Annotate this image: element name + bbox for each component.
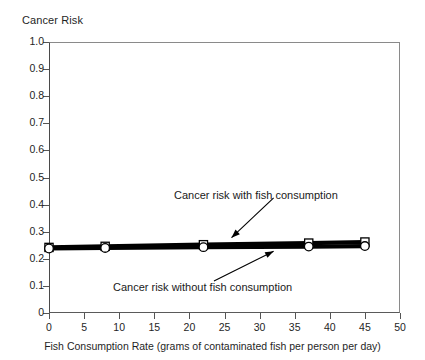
annotation-arrow-without-fish — [214, 251, 274, 281]
data-point-marker — [101, 244, 110, 253]
annotation-arrow-with-fish — [232, 198, 274, 238]
data-point-marker — [199, 243, 208, 252]
data-point-marker — [45, 244, 54, 253]
annotation-without-fish-consumption: Cancer risk without fish consumption — [113, 281, 292, 293]
data-point-marker — [361, 242, 370, 251]
data-point-marker — [304, 242, 313, 251]
annotation-with-fish-consumption: Cancer risk with fish consumption — [174, 189, 338, 201]
data-series-layer — [0, 0, 425, 360]
cancer-risk-chart: Cancer Risk 00.10.20.30.40.50.60.70.80.9… — [0, 0, 425, 360]
x-axis-title: Fish Consumption Rate (grams of contamin… — [0, 340, 425, 352]
